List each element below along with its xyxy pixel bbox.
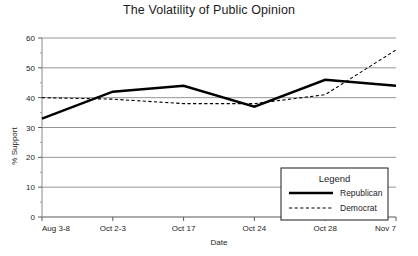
y-axis-ticks [38, 38, 42, 217]
x-tick-label: Oct 17 [172, 224, 196, 233]
chart-plot-area: 0102030405060 % Support Aug 3-8Oct 2-3Oc… [0, 0, 418, 256]
x-tick-label: Nov 7 [375, 224, 396, 233]
x-tick-label: Oct 2-3 [100, 224, 127, 233]
x-tick-label: Aug 3-8 [42, 224, 71, 233]
y-axis-title: % Support [10, 127, 19, 165]
y-tick-label: 0 [31, 213, 36, 222]
data-series-group [42, 50, 396, 119]
legend: Legend RepublicanDemocrat [281, 168, 388, 220]
legend-label-republican: Republican [340, 188, 383, 198]
x-axis-tick-labels: Aug 3-8Oct 2-3Oct 17Oct 24Oct 28Nov 7 [42, 224, 397, 233]
y-tick-label: 30 [26, 124, 35, 133]
x-axis-title: Date [211, 238, 228, 247]
legend-label-democrat: Democrat [340, 203, 377, 213]
y-tick-label: 20 [26, 153, 35, 162]
legend-title: Legend [319, 173, 351, 184]
y-tick-label: 50 [26, 64, 35, 73]
x-tick-label: Oct 24 [243, 224, 267, 233]
y-tick-label: 40 [26, 94, 35, 103]
chart-container: The Volatility of Public Opinion 0102030… [0, 0, 418, 256]
x-tick-label: Oct 28 [313, 224, 337, 233]
y-tick-label: 10 [26, 183, 35, 192]
y-axis-tick-labels: 0102030405060 [26, 34, 35, 222]
y-tick-label: 60 [26, 34, 35, 43]
